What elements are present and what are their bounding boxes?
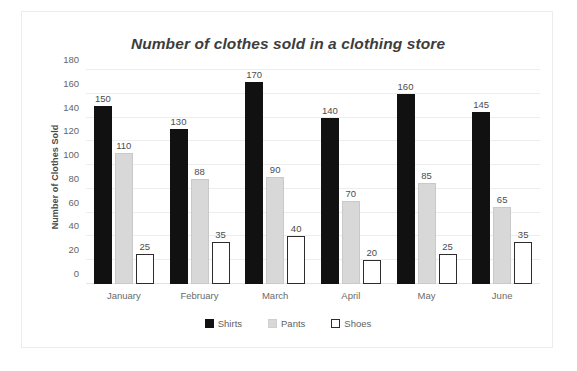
bar-pants-may[interactable] (418, 183, 436, 284)
y-axis-tick-label: 100 (63, 149, 79, 160)
bar-group: 1407020 (321, 70, 381, 284)
chart-title: Number of clothes sold in a clothing sto… (22, 35, 554, 53)
bar-value-label: 110 (116, 140, 131, 151)
bar-group: 1456535 (472, 70, 532, 284)
y-axis-tick-label: 0 (74, 268, 79, 279)
x-axis-label-february: February (180, 290, 218, 301)
legend-item-pants[interactable]: Pants (268, 318, 305, 329)
bar-value-label: 160 (398, 81, 414, 92)
bar-value-label: 145 (473, 99, 489, 110)
bar-pants-june[interactable] (493, 207, 511, 284)
legend-swatch-shirts-icon (205, 319, 214, 328)
bar-value-label: 170 (246, 69, 262, 80)
x-axis-label-march: March (262, 290, 288, 301)
legend-label: Pants (281, 318, 305, 329)
x-axis-labels: JanuaryFebruaryMarchAprilMayJune (86, 290, 540, 306)
bar-shoes-may[interactable] (439, 254, 457, 284)
bar-shoes-january[interactable] (136, 254, 154, 284)
bar-value-label: 88 (194, 166, 205, 177)
chart-frame: Number of clothes sold in a clothing sto… (21, 11, 553, 348)
y-axis-tick-label: 40 (68, 220, 79, 231)
bar-value-label: 25 (442, 241, 453, 252)
bar-pants-february[interactable] (191, 179, 209, 284)
bar-group: 1308835 (170, 70, 230, 284)
bar-value-label: 90 (270, 164, 281, 175)
bar-shirts-january[interactable] (94, 106, 112, 284)
bar-value-label: 35 (518, 229, 529, 240)
bar-group: 1709040 (245, 70, 305, 284)
bar-pants-april[interactable] (342, 201, 360, 284)
y-axis-tick-label: 180 (63, 54, 79, 65)
bar-value-label: 85 (421, 170, 432, 181)
legend-label: Shirts (218, 318, 242, 329)
bar-shirts-may[interactable] (397, 94, 415, 284)
bar-shirts-june[interactable] (472, 112, 490, 284)
bar-pants-march[interactable] (266, 177, 284, 284)
bars-layer: 1501102513088351709040140702016085251456… (86, 70, 540, 284)
bar-value-label: 150 (95, 93, 111, 104)
y-axis-tick-label: 60 (68, 196, 79, 207)
x-axis-label-april: April (341, 290, 360, 301)
legend-item-shoes[interactable]: Shoes (331, 318, 371, 329)
chart-legend: ShirtsPantsShoes (22, 318, 554, 329)
bar-pants-january[interactable] (115, 153, 133, 284)
y-axis-tick-label: 120 (63, 125, 79, 136)
x-axis-label-june: June (492, 290, 513, 301)
legend-swatch-shoes-icon (331, 319, 340, 328)
bar-value-label: 20 (367, 247, 378, 258)
legend-item-shirts[interactable]: Shirts (205, 318, 242, 329)
bar-value-label: 130 (171, 116, 187, 127)
y-axis-title: Number of Clothes Sold (50, 102, 60, 252)
y-axis-tick-label: 160 (63, 77, 79, 88)
bar-group: 15011025 (94, 70, 154, 284)
x-axis-label-may: May (418, 290, 436, 301)
legend-swatch-pants-icon (268, 319, 277, 328)
bar-shirts-march[interactable] (245, 82, 263, 284)
bar-shoes-june[interactable] (514, 242, 532, 284)
bar-shoes-february[interactable] (212, 242, 230, 284)
bar-value-label: 40 (291, 223, 302, 234)
bar-shoes-march[interactable] (287, 236, 305, 284)
bar-value-label: 70 (346, 188, 357, 199)
bar-group: 1608525 (397, 70, 457, 284)
plot-area: 020406080100120140160180 150110251308835… (86, 70, 540, 284)
bar-shoes-april[interactable] (363, 260, 381, 284)
x-axis-label-january: January (107, 290, 141, 301)
y-axis-tick-label: 80 (68, 172, 79, 183)
y-axis-tick-label: 140 (63, 101, 79, 112)
bar-value-label: 140 (322, 105, 338, 116)
bar-value-label: 35 (215, 229, 226, 240)
legend-label: Shoes (344, 318, 371, 329)
bar-shirts-february[interactable] (170, 129, 188, 284)
bar-shirts-april[interactable] (321, 118, 339, 284)
bar-value-label: 25 (140, 241, 151, 252)
bar-value-label: 65 (497, 194, 508, 205)
y-axis-tick-label: 20 (68, 244, 79, 255)
